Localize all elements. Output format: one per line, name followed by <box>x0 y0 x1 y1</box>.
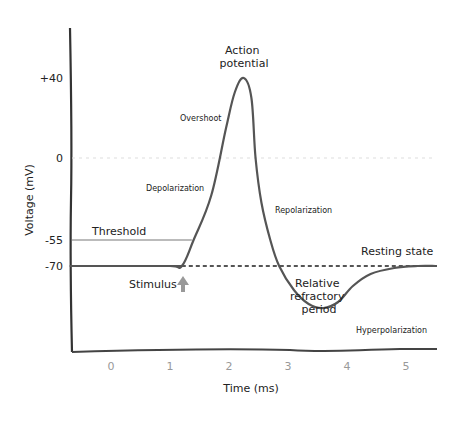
hyperpolarization-label: Hyperpolarization <box>356 326 427 335</box>
y-axis <box>70 28 72 352</box>
x-tick-label: 3 <box>285 360 292 373</box>
x-tick-label: 5 <box>403 360 410 373</box>
action-potential-chart: +400-55-70 012345 Time (ms) Voltage (mV)… <box>0 0 457 423</box>
overshoot-label: Overshoot <box>180 114 221 123</box>
repolarization-label: Repolarization <box>275 206 332 215</box>
y-tick-label: +40 <box>40 72 63 85</box>
x-tick-label: 2 <box>226 360 233 373</box>
stimulus-arrow-icon <box>177 276 189 292</box>
action-potential-label: Action potential <box>220 44 269 70</box>
y-axis-label: Voltage (mV) <box>23 164 36 236</box>
threshold-label: Threshold <box>91 225 146 238</box>
x-tick-label: 0 <box>108 360 115 373</box>
relative-refractory-period-label: Relative refractory period <box>290 277 348 316</box>
resting-state-label: Resting state <box>361 245 434 258</box>
y-tick-label: 0 <box>56 152 63 165</box>
x-axis <box>72 349 437 352</box>
depolarization-label: Depolarization <box>146 184 204 193</box>
y-tick-label: -70 <box>45 260 63 273</box>
x-tick-label: 4 <box>344 360 351 373</box>
stimulus-label: Stimulus <box>129 278 177 291</box>
y-tick-label: -55 <box>45 234 63 247</box>
x-axis-label: Time (ms) <box>222 382 278 395</box>
membrane-potential-curve <box>70 78 436 308</box>
x-tick-label: 1 <box>167 360 174 373</box>
